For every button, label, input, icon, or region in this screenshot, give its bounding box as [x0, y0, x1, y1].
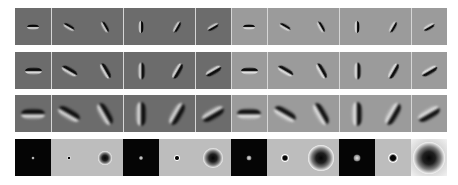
oriented-edge-icon: [206, 21, 219, 32]
gabor-filter-cell: [339, 8, 375, 45]
cell-divider: [339, 52, 340, 89]
cell-divider: [231, 95, 232, 132]
cell-divider: [123, 52, 124, 89]
oriented-edge-icon: [241, 67, 258, 75]
oriented-edge-icon: [276, 63, 295, 78]
oriented-edge-icon: [387, 20, 398, 33]
cell-divider: [231, 8, 232, 45]
gabor-filter-cell: [231, 95, 267, 132]
center-surround-cell: [159, 139, 195, 176]
ring-icon: [308, 145, 334, 171]
center-surround-cell: [15, 139, 51, 176]
cell-divider: [267, 8, 268, 45]
gabor-filter-cell: [411, 8, 447, 45]
cell-divider: [411, 95, 412, 132]
bright-dot-icon: [139, 156, 143, 160]
oriented-edge-icon: [278, 21, 291, 32]
center-surround-cell: [195, 139, 231, 176]
cell-divider: [195, 8, 196, 45]
oriented-edge-icon: [422, 21, 435, 32]
dark-dot-icon: [67, 156, 71, 160]
oriented-edge-icon: [382, 100, 404, 127]
cell-divider: [411, 8, 412, 45]
gabor-filter-cell: [159, 52, 195, 89]
cell-divider: [411, 52, 412, 89]
gabor-filter-cell: [303, 52, 339, 89]
gabor-filter-cell: [195, 95, 231, 132]
oriented-edge-icon: [200, 102, 227, 124]
gabor-filter-cell: [339, 95, 375, 132]
oriented-edge-icon: [416, 102, 443, 124]
cell-divider: [51, 52, 52, 89]
gabor-filter-cell: [123, 52, 159, 89]
cell-divider: [339, 8, 340, 45]
oriented-edge-icon: [315, 20, 326, 33]
oriented-edge-icon: [62, 21, 75, 32]
cell-divider: [195, 52, 196, 89]
gabor-row-1: [15, 8, 447, 45]
gabor-filter-cell: [15, 52, 51, 89]
gabor-filter-cell: [195, 52, 231, 89]
center-surround-cell: [51, 139, 87, 176]
cell-divider: [51, 8, 52, 45]
gabor-filter-cell: [87, 8, 123, 45]
oriented-edge-icon: [243, 24, 255, 30]
oriented-edge-icon: [313, 61, 328, 80]
oriented-edge-icon: [60, 63, 79, 78]
oriented-edge-icon: [25, 67, 42, 75]
oriented-edge-icon: [353, 62, 361, 79]
oriented-edge-icon: [169, 61, 184, 80]
gabor-filter-cell: [51, 8, 87, 45]
oriented-edge-icon: [21, 108, 45, 120]
gabor-filter-cell: [159, 95, 195, 132]
gabor-filter-cell: [375, 52, 411, 89]
oriented-edge-icon: [420, 63, 439, 78]
oriented-edge-icon: [354, 21, 360, 33]
cell-divider: [339, 95, 340, 132]
gabor-filter-cell: [267, 8, 303, 45]
gabor-row-2: [15, 52, 447, 89]
gabor-filter-cell: [267, 95, 303, 132]
gabor-filter-cell: [195, 8, 231, 45]
center-surround-cell: [123, 139, 159, 176]
cell-divider: [123, 95, 124, 132]
center-surround-row: [15, 139, 447, 176]
oriented-edge-icon: [272, 102, 299, 124]
oriented-edge-icon: [204, 63, 223, 78]
gabor-filter-cell: [87, 52, 123, 89]
gabor-filter-cell: [51, 95, 87, 132]
cell-divider: [195, 95, 196, 132]
gabor-filter-cell: [123, 8, 159, 45]
ring-icon: [413, 142, 445, 174]
cell-divider: [267, 52, 268, 89]
oriented-edge-icon: [166, 100, 188, 127]
dark-dot-icon: [174, 155, 180, 161]
center-surround-cell: [231, 139, 267, 176]
gabor-filter-cell: [303, 8, 339, 45]
bright-dot-icon: [247, 155, 252, 160]
gabor-filter-cell: [51, 52, 87, 89]
bright-dot-icon: [32, 156, 35, 159]
gabor-filter-cell: [159, 8, 195, 45]
gabor-filter-cell: [15, 8, 51, 45]
oriented-edge-icon: [237, 108, 261, 120]
cell-divider: [267, 95, 268, 132]
gabor-filter-cell: [411, 95, 447, 132]
gabor-filter-cell: [123, 95, 159, 132]
dark-dot-icon: [388, 153, 398, 163]
bright-dot-icon: [354, 154, 361, 161]
oriented-edge-icon: [27, 24, 39, 30]
oriented-edge-icon: [137, 62, 145, 79]
gabor-filter-cell: [303, 95, 339, 132]
gabor-filter-cell: [267, 52, 303, 89]
gabor-filter-cell: [231, 8, 267, 45]
center-surround-cell: [267, 139, 303, 176]
gabor-filter-cell: [339, 52, 375, 89]
oriented-edge-icon: [135, 102, 147, 126]
ring-icon: [98, 151, 112, 165]
cell-divider: [123, 8, 124, 45]
oriented-edge-icon: [138, 21, 144, 33]
dark-dot-icon: [281, 154, 289, 162]
gabor-filter-cell: [15, 95, 51, 132]
gabor-filter-cell: [411, 52, 447, 89]
